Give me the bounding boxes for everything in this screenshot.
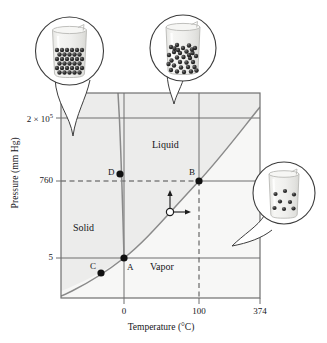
x-axis-label: Temperature (°C) (61, 323, 261, 333)
vapor-beaker-icon (269, 169, 299, 218)
state-marker-circle[interactable] (166, 208, 173, 215)
point-label-B: B (189, 168, 195, 177)
point-label-C: C (90, 262, 96, 271)
x-tick-label-0: 0 (104, 307, 144, 316)
region-label-solid: Solid (73, 223, 94, 233)
vapor-beaker-rim (269, 171, 299, 178)
point-C[interactable] (97, 269, 104, 276)
point-label-A: A (127, 263, 134, 272)
region-label-liquid: Liquid (152, 140, 179, 150)
y-tick-2e5-base: 2 × 10 (27, 114, 50, 124)
liquid-beaker-icon (166, 22, 200, 75)
solid-beaker-icon (53, 25, 87, 78)
y-axis-label: Pressure (mm Hg) (11, 113, 21, 233)
point-label-D: D (108, 168, 115, 177)
y-tick-2e5-exponent: 5 (50, 112, 53, 119)
phase-diagram-figure (0, 0, 327, 343)
point-A[interactable] (120, 254, 127, 261)
x-tick-label-100: 100 (179, 307, 219, 316)
point-D[interactable] (116, 170, 123, 177)
x-tick-label-374: 374 (240, 307, 280, 316)
point-B[interactable] (195, 177, 202, 184)
callout-liquid[interactable] (150, 15, 216, 104)
y-tick-label-2e5: 2 × 105 (8, 113, 53, 124)
y-tick-label-5: 5 (8, 253, 53, 262)
solid-beaker-rim (53, 26, 87, 33)
liquid-beaker-rim (166, 23, 200, 30)
y-tick-label-760: 760 (8, 176, 53, 185)
region-label-vapor: Vapor (150, 262, 174, 272)
